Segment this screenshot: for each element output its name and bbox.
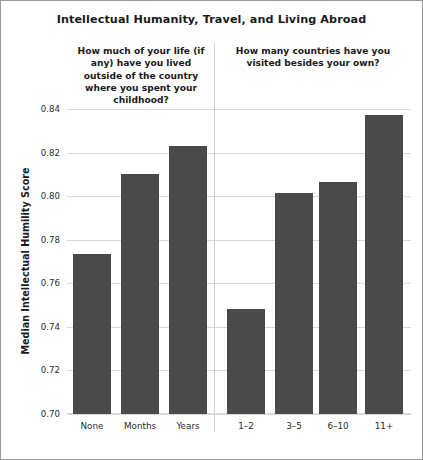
y-tick-label: 0.84 [41,104,60,114]
y-tick-label: 0.74 [41,322,60,332]
y-axis-title: Median Intellectual Humility Score [19,111,33,411]
y-tick-label: 0.72 [41,365,60,375]
y-tick-label: 0.82 [41,148,60,158]
y-tick-label: 0.70 [41,409,60,419]
panel-subtitle-living-abroad: How much of your life (if any) have you … [71,45,211,106]
bar: Months [121,174,159,414]
bar: 6–10 [319,182,357,414]
x-tick-label: Years [158,421,218,431]
bar: None [73,254,111,414]
bar: 3–5 [275,193,313,414]
x-tick-label: 11+ [354,421,414,431]
gridline: 0.80 [67,196,411,197]
y-tick-label: 0.80 [41,191,60,201]
gridline: 0.82 [67,153,411,154]
bar: Years [169,146,207,414]
y-tick-label: 0.78 [41,235,60,245]
y-tick-label: 0.76 [41,278,60,288]
gridline: 0.70 [67,414,411,415]
panel-divider [214,43,215,432]
gridline: 0.78 [67,240,411,241]
gridline: 0.84 [67,109,411,110]
panel-subtitle-countries-visited: How many countries have you visited besi… [223,45,403,70]
page-title: Intellectual Humanity, Travel, and Livin… [1,13,422,26]
bar: 11+ [365,115,403,414]
plot-area: 0.840.820.800.780.760.740.720.70NoneMont… [67,109,411,414]
gridline: 0.76 [67,283,411,284]
bar: 1–2 [227,309,265,414]
chart-figure: Intellectual Humanity, Travel, and Livin… [0,0,423,460]
